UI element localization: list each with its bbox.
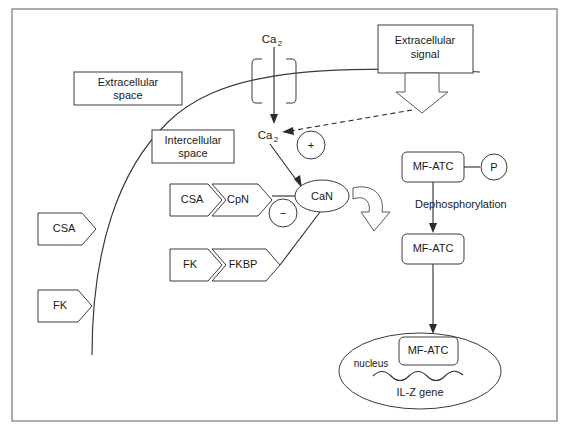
fkbp-complex-label: FKBP <box>229 258 258 270</box>
fk-outer-label: FK <box>53 299 68 311</box>
calcium-inside-label: Ca 2 <box>258 129 279 144</box>
mf-atc-nucleus-label: MF-ATC <box>408 344 449 356</box>
il-z-gene-label: IL-Z gene <box>396 386 443 398</box>
extracellular-signal-label-line2: signal <box>411 48 440 60</box>
phosphate-label: P <box>490 161 497 173</box>
calcium-outside-subscript: 2 <box>278 39 283 48</box>
extracellular-space-label-line1: Extracellular <box>98 76 159 88</box>
dephosphorylation-curved-block-arrow-icon <box>353 187 390 231</box>
can-label: CaN <box>311 190 333 202</box>
signal-to-calcium-arrow-head <box>282 127 294 135</box>
mf-atc-dephospho-box: MF-ATC <box>402 234 464 264</box>
csa-outer-label: CSA <box>53 222 76 234</box>
can-node: CaN <box>295 180 349 212</box>
calcium-outside-text: Ca <box>262 33 277 45</box>
mf-atc-dephospho-label: MF-ATC <box>413 242 454 254</box>
calcium-outside-label: Ca 2 <box>262 33 283 48</box>
intercellular-space-box: Intercellular space <box>152 130 234 163</box>
mf-atc-phospho-box: MF-ATC <box>402 152 464 182</box>
csa-outer-chevron: CSA <box>38 213 96 245</box>
fk-fkbp-complex: FK FKBP <box>170 249 280 281</box>
extracellular-space-box: Extracellular space <box>74 72 182 105</box>
extracellular-signal-label-line1: Extracellular <box>395 34 456 46</box>
signal-to-calcium-dashed-line <box>290 110 412 131</box>
nucleus-label: nucleus <box>354 358 388 369</box>
inhibition-minus-circle: − <box>269 199 297 227</box>
csa-cpn-complex: CSA CpN <box>170 184 272 216</box>
signal-block-arrow-icon <box>396 73 448 113</box>
activation-plus-circle: + <box>297 131 325 159</box>
extracellular-space-label-line2: space <box>113 89 142 101</box>
fk-complex-label: FK <box>183 258 198 270</box>
dephosphorylation-label: Dephosphorylation <box>415 198 507 210</box>
nuclear-translocation-arrow-head <box>429 324 437 334</box>
intercellular-space-label-line1: Intercellular <box>165 134 222 146</box>
phosphate-circle: P <box>481 154 507 180</box>
nucleus-node: nucleus MF-ATC IL-Z gene <box>339 333 501 409</box>
intercellular-space-label-line2: space <box>178 147 207 159</box>
signaling-pathway-diagram: Extracellular space Intercellular space … <box>0 0 569 431</box>
plus-sign-label: + <box>308 139 314 151</box>
diagram-canvas: Extracellular space Intercellular space … <box>0 0 569 431</box>
mf-atc-phospho-label: MF-ATC <box>413 160 454 172</box>
fk-outer-chevron: FK <box>38 290 92 322</box>
dephosphorylation-arrow-head <box>429 223 437 233</box>
calcium-inside-text: Ca <box>258 129 273 141</box>
csa-complex-label: CSA <box>181 193 204 205</box>
extracellular-signal-box: Extracellular signal <box>378 25 473 73</box>
calcium-inside-subscript: 2 <box>274 135 279 144</box>
minus-sign-label: − <box>280 207 286 219</box>
calcium-to-can-arrow-line <box>270 144 297 181</box>
calcium-influx-arrow-head <box>270 114 278 124</box>
cpn-complex-label: CpN <box>227 193 249 205</box>
